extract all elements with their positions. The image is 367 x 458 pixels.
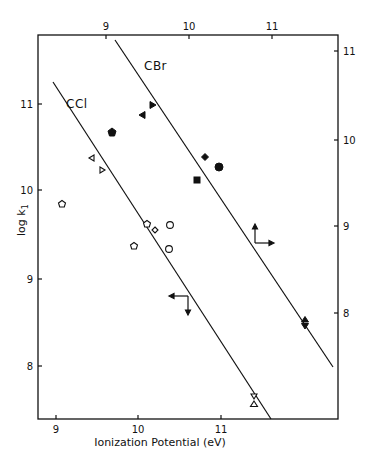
open-square-marker: [144, 221, 151, 228]
filled-left-triangle-marker: [139, 112, 145, 119]
top-tick-label: 10: [183, 21, 196, 32]
filled-up-triangle-marker: [302, 317, 309, 323]
open-pentagon-marker: [131, 243, 138, 250]
open-circle-marker: [167, 222, 174, 229]
scatter-chart: 9 10 11 9 10 11 Ionization Potential (eV…: [0, 0, 367, 458]
left-tick-label: 11: [20, 99, 33, 110]
cbr-points: [108, 102, 309, 330]
filled-circle-marker: [215, 163, 223, 171]
open-pentagon-marker: [59, 201, 66, 208]
right-tick-label: 10: [343, 135, 356, 146]
ccl-points: [59, 155, 258, 407]
ccl-label: CCl: [66, 97, 88, 111]
top-tick-label: 9: [103, 21, 109, 32]
cbr-axes-arrow-icon: [253, 224, 275, 246]
plot-frame: [38, 35, 338, 419]
cbr-label: CBr: [144, 59, 167, 73]
y-axis-title: log k1: [15, 204, 30, 236]
ccl-axes-arrow-icon: [169, 294, 191, 316]
filled-square-marker: [194, 177, 200, 183]
filled-pentagon-marker: [108, 128, 116, 136]
bottom-tick-label: 10: [132, 424, 145, 435]
y-axis-title-sub: 1: [21, 204, 30, 209]
left-tick-label: 8: [27, 361, 33, 372]
bottom-tick-label: 11: [215, 424, 228, 435]
left-tick-label: 10: [20, 185, 33, 196]
y-axis-title-main: log k: [15, 209, 28, 236]
open-down-triangle-marker: [251, 394, 257, 399]
filled-right-triangle-marker: [150, 102, 156, 109]
right-tick-label: 11: [343, 46, 356, 57]
open-left-triangle-marker: [89, 155, 94, 161]
cbr-fit-line: [115, 40, 333, 367]
open-up-triangle-marker: [251, 401, 258, 407]
open-diamond-marker: [152, 227, 158, 233]
top-tick-label: 11: [266, 21, 279, 32]
open-right-triangle-marker: [100, 167, 105, 173]
svg-text:log k1: log k1: [15, 204, 30, 236]
right-tick-label: 8: [343, 308, 349, 319]
ccl-fit-line: [53, 82, 271, 419]
left-tick-label: 9: [27, 274, 33, 285]
bottom-tick-label: 9: [53, 424, 59, 435]
right-tick-label: 9: [343, 221, 349, 232]
open-circle-marker: [166, 246, 173, 253]
filled-diamond-marker: [202, 154, 209, 161]
x-axis-title: Ionization Potential (eV): [94, 436, 226, 449]
